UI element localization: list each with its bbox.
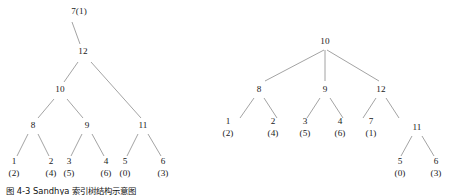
node-key-label: 7 — [365, 117, 376, 127]
tree-node-r-5: 5(0) — [394, 157, 405, 179]
tree-node-l-1: 1(2) — [8, 157, 19, 179]
tree-edge-l-10-to-l-9 — [67, 99, 83, 118]
node-sub-label: (4) — [45, 169, 56, 179]
node-sub-label: (6) — [100, 169, 111, 179]
node-sub-label: (1) — [76, 6, 87, 16]
node-key-label: 12 — [376, 85, 385, 95]
tree-edge-r-12-to-r-11 — [386, 98, 399, 118]
figure-root: 7(1)121089111(2)2(4)3(5)4(6)5(0)6(3)1089… — [0, 0, 449, 195]
tree-node-l-10: 10 — [55, 85, 64, 95]
node-sub-label: (5) — [299, 129, 310, 139]
tree-edge-r-12-to-r-7 — [363, 98, 376, 118]
node-sub-label: (5) — [63, 169, 74, 179]
node-key-label: 11 — [138, 121, 147, 131]
node-key-label: 3 — [63, 157, 74, 167]
tree-edge-l-10-to-l-8 — [38, 99, 54, 118]
node-key-label: 10 — [55, 85, 64, 95]
tree-node-r-10: 10 — [320, 37, 329, 47]
node-key-label: 8 — [31, 121, 36, 131]
tree-node-l-5: 5(0) — [119, 157, 130, 179]
node-sub-label: (0) — [119, 169, 130, 179]
tree-node-l-3: 3(5) — [63, 157, 74, 179]
node-sub-label: (3) — [157, 169, 168, 179]
tree-edge-l-11-to-l-6 — [148, 134, 161, 156]
tree-edge-l-9-to-l-4 — [92, 134, 104, 156]
node-key-label: 11 — [412, 123, 421, 133]
node-key-label: 5 — [394, 157, 405, 167]
node-key-label: 1 — [222, 117, 233, 127]
node-key-label: 1 — [8, 157, 19, 167]
node-key-label: 9 — [323, 85, 328, 95]
tree-node-r-2: 2(4) — [267, 117, 278, 139]
node-key-label: 4 — [100, 157, 111, 167]
tree-edge-l-8-to-l-2 — [38, 134, 49, 156]
tree-node-l-root: 7(1) — [71, 7, 87, 17]
node-sub-label: (2) — [8, 169, 19, 179]
tree-edge-l-12-to-l-11 — [91, 62, 141, 118]
tree-edge-l-11-to-l-5 — [127, 134, 138, 156]
tree-edge-l-root-to-l-12 — [72, 22, 80, 44]
node-key-label: 6 — [430, 157, 441, 167]
tree-node-r-3: 3(5) — [299, 117, 310, 139]
tree-edge-r-10-to-r-8 — [265, 50, 324, 81]
tree-node-r-12: 12 — [376, 85, 385, 95]
node-key-label: 3 — [299, 117, 310, 127]
tree-node-l-4: 4(6) — [100, 157, 111, 179]
node-sub-label: (4) — [267, 129, 278, 139]
node-key-label: 5 — [119, 157, 130, 167]
node-key-label: 8 — [257, 85, 262, 95]
tree-node-l-11: 11 — [138, 121, 147, 131]
node-key-label: 9 — [85, 121, 90, 131]
node-key-label: 6 — [157, 157, 168, 167]
tree-node-r-1: 1(2) — [222, 117, 233, 139]
tree-edge-r-9-to-r-3 — [307, 98, 320, 118]
tree-edge-r-9-to-r-4 — [330, 98, 343, 118]
tree-node-r-7: 7(1) — [365, 117, 376, 139]
tree-node-r-8: 8 — [257, 85, 262, 95]
tree-edge-r-11-to-r-6 — [422, 136, 434, 156]
tree-edge-l-8-to-l-1 — [17, 134, 28, 156]
tree-edge-l-12-to-l-10 — [64, 62, 78, 82]
node-key-label: 10 — [320, 37, 329, 47]
tree-node-r-6: 6(3) — [430, 157, 441, 179]
tree-node-l-6: 6(3) — [157, 157, 168, 179]
node-sub-label: (0) — [394, 169, 405, 179]
tree-node-l-9: 9 — [85, 121, 90, 131]
tree-node-l-12: 12 — [78, 47, 87, 57]
node-sub-label: (3) — [430, 169, 441, 179]
tree-node-r-9: 9 — [323, 85, 328, 95]
tree-edge-r-8-to-r-2 — [264, 98, 277, 118]
tree-edge-r-8-to-r-1 — [240, 98, 254, 118]
tree-node-r-11: 11 — [412, 123, 421, 133]
tree-node-r-4: 4(6) — [334, 117, 345, 139]
figure-caption: 图 4-3 Sandhya 索引树结构示意图 — [6, 186, 446, 195]
tree-node-l-8: 8 — [31, 121, 36, 131]
node-sub-label: (6) — [334, 129, 345, 139]
node-sub-label: (1) — [365, 129, 376, 139]
tree-edge-l-9-to-l-3 — [71, 134, 82, 156]
tree-edge-r-10-to-r-12 — [327, 50, 379, 81]
tree-edge-r-11-to-r-5 — [401, 136, 412, 156]
node-key-label: 4 — [334, 117, 345, 127]
tree-node-l-2: 2(4) — [45, 157, 56, 179]
node-sub-label: (2) — [222, 129, 233, 139]
node-key-label: 2 — [267, 117, 278, 127]
node-key-label: 2 — [45, 157, 56, 167]
node-key-label: 12 — [78, 47, 87, 57]
